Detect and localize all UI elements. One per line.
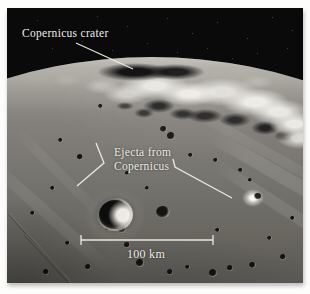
film-grain-speck	[207, 48, 208, 49]
film-grain-speck	[52, 48, 53, 49]
film-grain-speck	[112, 50, 113, 51]
figure-page: Copernicus crater Ejecta from Copernicus…	[0, 0, 310, 294]
film-grain-speck	[177, 52, 178, 53]
film-grain-speck	[272, 17, 273, 18]
film-grain-speck	[247, 38, 248, 39]
film-grain-speck	[287, 48, 288, 49]
film-grain-speck	[127, 26, 128, 27]
film-grain-speck	[292, 30, 293, 31]
scale-bar-label: 100 km	[106, 247, 186, 262]
film-grain-speck	[82, 41, 83, 42]
film-grain-speck	[257, 53, 258, 54]
film-grain-speck	[167, 18, 168, 19]
film-grain-speck	[97, 16, 98, 17]
film-grain-speck	[232, 58, 233, 59]
ejecta-label: Ejecta from Copernicus	[114, 146, 171, 173]
film-grain-speck	[192, 33, 193, 34]
film-grain-speck	[217, 22, 218, 23]
film-grain-speck	[147, 43, 148, 44]
ejecta-label-line2: Copernicus	[114, 160, 171, 174]
copernicus-crater-label: Copernicus crater	[22, 27, 109, 39]
film-grain-speck	[37, 20, 38, 21]
ejecta-label-line1: Ejecta from	[114, 146, 171, 160]
lunar-photo: Copernicus crater Ejecta from Copernicus…	[7, 8, 303, 283]
